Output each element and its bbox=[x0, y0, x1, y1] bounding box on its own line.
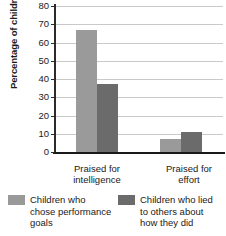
legend-label-performance-goals-line-0: Children who bbox=[30, 194, 111, 206]
y-tick-50 bbox=[51, 61, 55, 62]
x-axis-line bbox=[53, 152, 225, 154]
x-category-label-1: Praised for effort bbox=[139, 163, 226, 185]
legend-label-lied-to-others-line-2: how they did bbox=[140, 217, 213, 229]
gridline-70 bbox=[55, 24, 223, 25]
y-tick-label-50: 50 bbox=[27, 56, 49, 65]
y-tick-label-30: 30 bbox=[27, 92, 49, 101]
y-tick-label-10: 10 bbox=[27, 129, 49, 138]
legend-label-performance-goals-line-2: goals bbox=[30, 217, 111, 229]
y-tick-60 bbox=[51, 43, 55, 44]
y-tick-label-80: 80 bbox=[27, 1, 49, 10]
y-tick-10 bbox=[51, 134, 55, 135]
y-tick-label-20: 20 bbox=[27, 111, 49, 120]
bar-praised-for-intelligence-performance-goals bbox=[76, 30, 97, 152]
y-tick-40 bbox=[51, 79, 55, 80]
bar-praised-for-intelligence-lied bbox=[97, 84, 118, 152]
bar-praised-for-effort-lied bbox=[181, 132, 202, 152]
legend-label-performance-goals-line-1: chose performance bbox=[30, 206, 111, 218]
x-category-label-0-line-1: intelligence bbox=[47, 174, 147, 185]
y-tick-label-40: 40 bbox=[27, 74, 49, 83]
bar-praised-for-effort-performance-goals bbox=[160, 139, 181, 152]
y-axis-title: Percentage of children bbox=[8, 0, 22, 99]
gridline-80 bbox=[55, 6, 223, 7]
legend-label-lied-to-others-line-0: Children who lied bbox=[140, 194, 213, 206]
legend-swatch-icon-lied-to-others bbox=[118, 195, 135, 205]
plot-area: 80 70 60 50 40 30 20 10 0 Praised for in… bbox=[55, 6, 223, 152]
chart-legend: Children who chose performance goals Chi… bbox=[0, 194, 226, 236]
y-tick-0 bbox=[51, 152, 55, 153]
y-tick-label-0: 0 bbox=[27, 147, 49, 156]
legend-entry-performance-goals: Children who chose performance goals bbox=[8, 194, 116, 229]
x-category-label-1-line-0: Praised for bbox=[139, 163, 226, 174]
y-tick-label-70: 70 bbox=[27, 19, 49, 28]
y-tick-label-60: 60 bbox=[27, 38, 49, 47]
y-tick-70 bbox=[51, 24, 55, 25]
y-tick-30 bbox=[51, 97, 55, 98]
legend-label-performance-goals: Children who chose performance goals bbox=[30, 194, 111, 229]
legend-swatch-icon-performance-goals bbox=[8, 195, 25, 205]
y-tick-80 bbox=[51, 6, 55, 7]
bar-chart-figure: Percentage of children 80 70 60 50 40 30… bbox=[0, 0, 226, 236]
legend-label-lied-to-others-line-1: to others about bbox=[140, 206, 213, 218]
x-category-label-1-line-1: effort bbox=[139, 174, 226, 185]
x-category-label-0-line-0: Praised for bbox=[47, 163, 147, 174]
legend-entry-lied-to-others: Children who lied to others about how th… bbox=[118, 194, 226, 229]
y-tick-20 bbox=[51, 116, 55, 117]
legend-label-lied-to-others: Children who lied to others about how th… bbox=[140, 194, 213, 229]
x-category-label-0: Praised for intelligence bbox=[47, 163, 147, 185]
